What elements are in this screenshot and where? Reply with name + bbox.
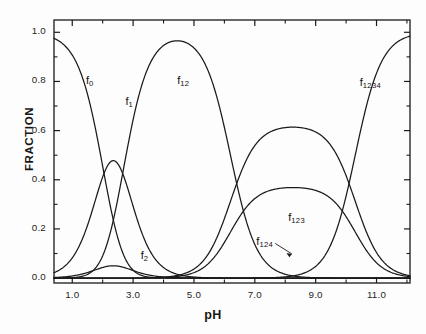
x-tick-label: 1.0 <box>52 289 92 300</box>
curve-label-subscript: 124 <box>259 240 273 249</box>
y-tick-label: 0.4 <box>8 173 46 184</box>
curve-label-f124: f124 <box>256 235 273 247</box>
curve-label-subscript: 2 <box>144 254 149 263</box>
curve-f1 <box>54 161 410 278</box>
y-tick-label: 0.2 <box>8 222 46 233</box>
x-tick-label: 9.0 <box>296 289 336 300</box>
curve-label-subscript: 12 <box>180 79 189 88</box>
x-axis-title: pH <box>0 308 426 322</box>
y-tick-label: 0.6 <box>8 124 46 135</box>
curve-label-f12: f12 <box>177 74 189 86</box>
curve-f12 <box>54 41 410 278</box>
x-tick-label: 5.0 <box>174 289 214 300</box>
y-tick-label: 0.0 <box>8 271 46 282</box>
curve-label-subscript: 0 <box>89 79 94 88</box>
curve-label-f1234: f1234 <box>360 76 381 88</box>
curve-label-f123: f123 <box>288 211 305 223</box>
curve-f124 <box>54 188 410 279</box>
chart-canvas <box>0 0 426 334</box>
curve-label-f1: f1 <box>126 95 134 107</box>
curve-label-subscript: 123 <box>291 216 305 225</box>
x-tick-label: 3.0 <box>113 289 153 300</box>
curve-label-subscript: 1234 <box>363 81 381 90</box>
x-tick-label: 7.0 <box>235 289 275 300</box>
species-distribution-chart: FRACTION pH 0.00.20.40.60.81.0 1.03.05.0… <box>0 0 426 334</box>
y-tick-label: 0.8 <box>8 74 46 85</box>
curve-label-subscript: 1 <box>129 100 134 109</box>
y-tick-label: 1.0 <box>8 25 46 36</box>
x-tick-label: 11.0 <box>357 289 397 300</box>
curve-label-f0: f0 <box>86 74 94 86</box>
curve-f2 <box>54 266 410 278</box>
f124-leader-line <box>275 243 292 254</box>
curve-label-f2: f2 <box>141 249 149 261</box>
